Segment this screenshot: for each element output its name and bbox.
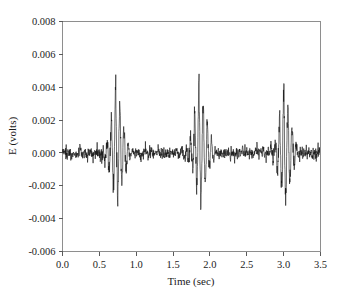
x-axis-title: Time (sec) [168, 275, 215, 288]
x-tick-label: 2.5 [240, 259, 253, 270]
x-tick-label: 1.0 [130, 259, 143, 270]
y-tick-label: 0.002 [32, 115, 56, 126]
x-tick-label: 1.5 [167, 259, 180, 270]
chart-page: 0.0080.0060.0040.0020.000-0.002-0.004-0.… [0, 0, 344, 299]
y-tick-label: -0.006 [28, 246, 55, 257]
y-tick-label: 0.004 [32, 82, 56, 93]
y-tick-label: -0.004 [28, 213, 56, 224]
y-tick-label: 0.006 [32, 49, 56, 60]
y-axis-title: E (volts) [6, 117, 19, 156]
x-tick-label: 0.0 [56, 259, 69, 270]
x-tick-label: 3.5 [314, 259, 327, 270]
y-tick-label: 0.000 [32, 148, 56, 159]
voltage-time-series-chart: 0.0080.0060.0040.0020.000-0.002-0.004-0.… [0, 0, 344, 299]
x-tick-label: 0.5 [93, 259, 106, 270]
y-tick-label: -0.002 [28, 180, 55, 191]
y-tick-label: 0.008 [32, 16, 56, 27]
x-tick-label: 3.0 [277, 259, 290, 270]
x-tick-label: 2.0 [203, 259, 216, 270]
